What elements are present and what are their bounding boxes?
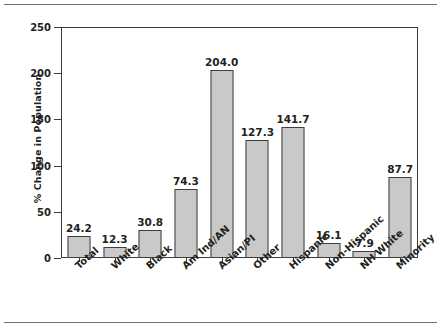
y-tick-mark [54, 119, 61, 120]
bottom-divider-rule [4, 322, 437, 323]
bar-value-label: 24.2 [66, 222, 92, 234]
bar-slot: 87.7 [382, 27, 418, 258]
y-tick-label: 50 [3, 206, 51, 217]
bar-value-label: 74.3 [173, 175, 199, 187]
y-tick-mark [54, 73, 61, 74]
bar-value-label: 141.7 [276, 113, 309, 125]
top-divider-rule [4, 4, 437, 5]
bar-slot: 12.3 [97, 27, 133, 258]
bars-layer: 24.212.330.874.3204.0127.3141.716.17.987… [61, 27, 418, 258]
y-tick-label: 150 [3, 114, 51, 125]
bar-slot: 16.1 [311, 27, 347, 258]
bar-value-label: 127.3 [241, 126, 274, 138]
y-tick-label: 0 [3, 253, 51, 264]
y-tick-label: 200 [3, 68, 51, 79]
bar-slot: 141.7 [275, 27, 311, 258]
bar-value-label: 87.7 [387, 163, 413, 175]
bar-slot: 74.3 [168, 27, 204, 258]
bar-value-label: 12.3 [102, 233, 128, 245]
y-tick-label: 100 [3, 160, 51, 171]
bar-slot: 204.0 [204, 27, 240, 258]
bar-chart-figure: % Change in Population 050100150200250 2… [0, 0, 441, 333]
y-tick-mark [54, 258, 61, 259]
bar-hispanic [282, 127, 305, 258]
y-tick-mark [54, 166, 61, 167]
bar-value-label: 30.8 [137, 216, 163, 228]
y-tick-mark [54, 27, 61, 28]
bar-slot: 24.2 [61, 27, 97, 258]
bar-am-ind-an [174, 189, 197, 258]
y-tick-mark [54, 212, 61, 213]
bar-slot: 30.8 [132, 27, 168, 258]
bar-slot: 127.3 [240, 27, 276, 258]
y-tick-label: 250 [3, 22, 51, 33]
bar-value-label: 204.0 [205, 56, 238, 68]
